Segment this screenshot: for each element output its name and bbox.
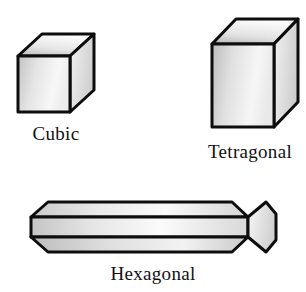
rectangular-prism-icon bbox=[208, 14, 304, 134]
hexprism-end-face bbox=[248, 202, 276, 252]
tetragonal-front-face bbox=[212, 44, 274, 127]
tetragonal-label: Tetragonal bbox=[194, 142, 306, 161]
hexprism-top-face bbox=[31, 202, 248, 217]
hexprism-bottom-face bbox=[31, 237, 248, 252]
hexprism-front-face bbox=[31, 217, 248, 237]
cube-icon bbox=[14, 30, 98, 116]
hexagonal-label: Hexagonal bbox=[0, 264, 306, 283]
hexagonal-prism-icon bbox=[26, 196, 282, 260]
crystal-systems-figure: Cubic Tetragonal bbox=[0, 0, 306, 292]
cube-front-face bbox=[18, 56, 70, 112]
cubic-label: Cubic bbox=[0, 124, 112, 143]
